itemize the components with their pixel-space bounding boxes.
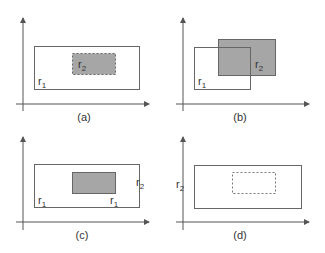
rect-dashed (233, 173, 276, 194)
rect-outer (195, 166, 302, 209)
rect-r2 (219, 40, 276, 76)
caption-d: (d) (233, 229, 246, 241)
diagram-canvas: r2 r1 (a) r2 r1 (b) r1 r1 r2 (c) r2 (d) (0, 0, 325, 253)
panel-a: r2 r1 (a) (16, 18, 149, 123)
label-r1-left: r1 (38, 194, 47, 209)
panel-d: r2 (d) (176, 137, 309, 241)
panel-b: r2 r1 (b) (176, 18, 309, 123)
label-r1-right: r1 (110, 194, 119, 209)
label-r2: r2 (136, 176, 145, 191)
rect-inner (73, 173, 116, 194)
caption-b: (b) (233, 111, 246, 123)
caption-a: (a) (77, 111, 90, 123)
caption-c: (c) (76, 229, 89, 241)
label-r1: r1 (198, 75, 207, 90)
panel-c: r1 r1 r2 (c) (16, 137, 149, 241)
label-r1: r1 (38, 75, 47, 90)
